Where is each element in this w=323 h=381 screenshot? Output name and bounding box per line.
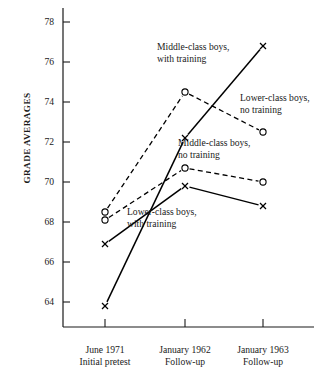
- x-tick-label-line-1: January 1963: [220, 344, 306, 356]
- data-point-marker-circle: [260, 179, 266, 185]
- annotation-line-2: no training: [178, 149, 250, 161]
- annotation-line-2: no training: [240, 104, 310, 116]
- series-markers: [102, 43, 266, 309]
- y-axis-tick-label: 70: [28, 177, 54, 187]
- series-line-segment: [189, 187, 258, 205]
- x-axis-tick-label: June 1971Initial pretest: [62, 344, 148, 367]
- line-chart: GRADE AVERAGES 6466687072747678 June 197…: [0, 0, 323, 381]
- series-lines: [107, 50, 260, 302]
- series-annotation-middle-class-with-training: Middle-class boys, with training: [157, 41, 229, 65]
- annotation-line-1: Middle-class boys,: [178, 137, 250, 149]
- data-point-marker-cross: [102, 303, 108, 309]
- y-axis-tick-label: 66: [28, 257, 54, 267]
- x-axis-tick-label: January 1963Follow-up: [220, 344, 306, 367]
- x-tick-label-line-1: January 1962: [142, 344, 228, 356]
- series-line-segment: [190, 169, 259, 181]
- y-axis-tick-label: 74: [28, 97, 54, 107]
- data-point-marker-circle: [102, 209, 108, 215]
- y-axis-tick-label: 78: [28, 17, 54, 27]
- y-axis-ticks: [63, 22, 70, 302]
- data-point-marker-cross: [182, 183, 188, 189]
- data-point-marker-circle: [182, 89, 188, 95]
- series-annotation-lower-class-with-training: Lower-class boys, with training: [127, 206, 197, 230]
- data-point-marker-circle: [182, 165, 188, 171]
- x-tick-label-line-1: June 1971: [62, 344, 148, 356]
- annotation-line-2: with training: [127, 218, 197, 230]
- data-point-marker-cross: [260, 203, 266, 209]
- x-axis-ticks: [105, 319, 263, 327]
- data-point-marker-circle: [260, 129, 266, 135]
- y-axis-tick-label: 76: [28, 57, 54, 67]
- y-axis-tick-label: 72: [28, 137, 54, 147]
- x-tick-label-line-2: Follow-up: [142, 356, 228, 368]
- series-line-segment: [108, 96, 183, 208]
- data-point-marker-circle: [102, 217, 108, 223]
- data-point-marker-cross: [102, 241, 108, 247]
- data-point-marker-cross: [260, 43, 266, 49]
- annotation-line-1: Lower-class boys,: [240, 92, 310, 104]
- y-axis-tick-label: 64: [28, 297, 54, 307]
- annotation-line-2: with training: [157, 53, 229, 65]
- series-annotation-middle-class-no-training: Middle-class boys, no training: [178, 137, 250, 161]
- annotation-line-1: Middle-class boys,: [157, 41, 229, 53]
- x-axis-tick-label: January 1962Follow-up: [142, 344, 228, 367]
- y-axis-tick-label: 68: [28, 217, 54, 227]
- annotation-line-1: Lower-class boys,: [127, 206, 197, 218]
- series-annotation-lower-class-no-training: Lower-class boys, no training: [240, 92, 310, 116]
- x-tick-label-line-2: Follow-up: [220, 356, 306, 368]
- x-tick-label-line-2: Initial pretest: [62, 356, 148, 368]
